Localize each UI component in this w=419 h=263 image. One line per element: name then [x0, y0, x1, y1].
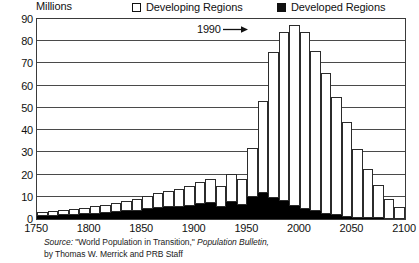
bar-segment-developing-regions — [363, 169, 374, 218]
bar-segment-developed-regions — [48, 216, 59, 219]
y-tick-label: 40 — [3, 125, 33, 136]
bar-group — [90, 206, 101, 219]
bar-segment-developed-regions — [37, 216, 48, 219]
legend-label-developing-regions: Developing Regions — [146, 1, 243, 13]
plot-area — [36, 18, 406, 220]
bar-segment-developing-regions — [132, 199, 143, 211]
legend-item-developed-regions: Developed Regions — [277, 0, 385, 14]
bar-segment-developed-regions — [247, 197, 258, 219]
bar-group — [268, 52, 279, 219]
bar-group — [58, 210, 69, 219]
bar-segment-developing-regions — [321, 73, 332, 214]
bar-segment-developing-regions — [195, 182, 206, 204]
bar-group — [37, 212, 48, 219]
population-increase-chart: Millions Developing Regions Developed Re… — [0, 0, 419, 263]
bar-segment-developing-regions — [90, 206, 101, 213]
legend-label-developed-regions: Developed Regions — [291, 1, 385, 13]
bar-group — [331, 97, 342, 219]
bar-group — [195, 182, 206, 219]
bar-group — [184, 186, 195, 219]
bar-segment-developing-regions — [289, 25, 300, 206]
bar-segment-developed-regions — [58, 215, 69, 219]
source-note: Source: "World Population in Transition,… — [44, 237, 414, 260]
y-tick-label: 80 — [3, 36, 33, 47]
bar-segment-developed-regions — [184, 206, 195, 219]
bar-segment-developed-regions — [321, 214, 332, 219]
bar-segment-developed-regions — [121, 211, 132, 219]
bar-series-container — [37, 19, 405, 219]
bar-segment-developed-regions — [79, 214, 90, 219]
bar-segment-developed-regions — [132, 211, 143, 219]
bar-group — [384, 199, 395, 219]
bar-segment-developed-regions — [163, 207, 174, 219]
bar-segment-developing-regions — [268, 52, 279, 198]
bar-segment-developed-regions — [174, 207, 185, 219]
bar-segment-developing-regions — [247, 148, 258, 197]
bar-group — [153, 193, 164, 219]
y-tick-label: 20 — [3, 170, 33, 181]
x-tick-label: 1850 — [129, 222, 153, 234]
bar-group — [300, 32, 311, 219]
bar-segment-developing-regions — [373, 185, 384, 218]
bar-segment-developed-regions — [258, 193, 269, 219]
bar-group — [289, 25, 300, 219]
peak-annotation: 1990 — [197, 22, 249, 36]
bar-segment-developing-regions — [174, 189, 185, 207]
bar-group — [279, 32, 290, 219]
legend-item-developing-regions: Developing Regions — [132, 0, 243, 14]
peak-annotation-label: 1990 — [197, 23, 221, 35]
bar-group — [205, 179, 216, 219]
x-tick-label: 1750 — [24, 222, 48, 234]
bar-segment-developed-regions — [226, 202, 237, 219]
hollow-square-icon — [132, 3, 141, 12]
y-tick-label: 10 — [3, 192, 33, 203]
bar-segment-developing-regions — [384, 199, 395, 219]
bar-segment-developing-regions — [300, 32, 311, 209]
bar-segment-developing-regions — [100, 205, 111, 213]
bar-segment-developing-regions — [205, 179, 216, 203]
bar-segment-developing-regions — [153, 193, 164, 208]
bar-segment-developing-regions — [111, 203, 122, 213]
bar-group — [247, 148, 258, 219]
bar-segment-developed-regions — [237, 205, 248, 219]
bar-segment-developed-regions — [216, 207, 227, 219]
bar-segment-developed-regions — [310, 211, 321, 219]
bar-group — [216, 186, 227, 219]
bar-segment-developing-regions — [342, 122, 353, 216]
bar-segment-developed-regions — [205, 203, 216, 219]
bar-segment-developing-regions — [331, 97, 342, 216]
bar-segment-developing-regions — [237, 179, 248, 205]
filled-square-icon — [277, 3, 286, 12]
x-tick-label: 2050 — [340, 222, 364, 234]
x-tick-label: 1900 — [182, 222, 206, 234]
bar-segment-developing-regions — [216, 186, 227, 207]
bar-group — [226, 174, 237, 219]
bar-group — [363, 169, 374, 219]
bar-segment-developed-regions — [69, 215, 80, 219]
y-tick-label: 70 — [3, 58, 33, 69]
bar-segment-developing-regions — [121, 201, 132, 212]
bar-segment-developing-regions — [394, 207, 405, 219]
bar-segment-developed-regions — [153, 208, 164, 219]
bar-group — [321, 73, 332, 219]
bar-group — [121, 201, 132, 219]
bar-segment-developed-regions — [111, 212, 122, 219]
x-tick-label: 1950 — [234, 222, 258, 234]
bar-segment-developing-regions — [184, 186, 195, 206]
bar-segment-developing-regions — [310, 51, 321, 211]
y-axis-title: Millions — [36, 0, 72, 13]
bar-segment-developed-regions — [268, 198, 279, 219]
bar-segment-developed-regions — [342, 217, 353, 219]
source-publication: Population Bulletin, — [197, 237, 269, 247]
bar-group — [310, 51, 321, 219]
y-axis-tick-labels: 0102030405060708090 — [0, 18, 33, 220]
source-prefix: Source: — [44, 237, 73, 247]
bar-group — [111, 203, 122, 219]
bar-segment-developed-regions — [331, 215, 342, 219]
bar-group — [79, 208, 90, 219]
x-tick-label: 2100 — [392, 222, 416, 234]
bar-group — [352, 149, 363, 219]
bar-group — [174, 189, 185, 219]
bar-segment-developing-regions — [226, 174, 237, 202]
y-tick-label: 50 — [3, 103, 33, 114]
